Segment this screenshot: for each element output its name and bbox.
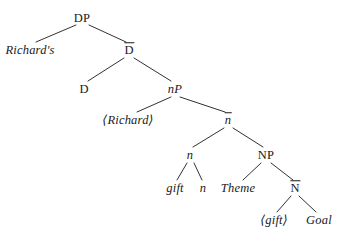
tree-edge-np_cap-to-theme: [243, 163, 261, 180]
tree-edge-dbar-to-np_small: [134, 58, 171, 81]
tree-node-np-small: nP: [168, 83, 182, 96]
tree-node-richard-copy: ⟨Richard⟩: [102, 114, 153, 127]
tree-edge-nbar-to-n_node: [193, 128, 224, 147]
tree-node-d-bar: D: [124, 43, 133, 57]
tree-edge-nbar_cap-to-goal: [299, 196, 316, 212]
tree-edge-np_small-to-richard: [137, 97, 171, 112]
tree-edge-np_small-to-nbar: [180, 97, 225, 112]
tree-edge-np_cap-to-nbar_cap: [271, 163, 293, 180]
tree-node-d: D: [79, 83, 88, 96]
tree-edge-dp-to-richards: [36, 25, 76, 42]
tree-node-np: NP: [258, 149, 274, 162]
tree-leaf-gift-copy: ⟨gift⟩: [260, 214, 288, 227]
tree-leaf-gift: gift: [166, 182, 183, 195]
tree-leaf-theme: Theme: [221, 182, 255, 195]
tree-edge-n_node-to-n_term: [194, 163, 202, 180]
tree-edge-nbar_cap-to-gift_copy: [277, 196, 291, 212]
tree-leaf-n: n: [200, 182, 206, 195]
tree-node-n: n: [187, 149, 193, 162]
tree-node-n-bar-capital: N: [290, 181, 299, 195]
syntax-tree-figure: DP Richard's D D nP ⟨Richard⟩ n n NP gif…: [0, 0, 345, 239]
tree-node-richards: Richard's: [5, 44, 54, 57]
tree-edge-nbar-to-np_cap: [233, 128, 263, 147]
tree-edge-layer: [0, 0, 345, 239]
tree-node-n-bar: n: [225, 113, 231, 127]
tree-edge-n_node-to-gift: [177, 163, 187, 180]
tree-leaf-goal: Goal: [306, 214, 332, 227]
tree-edge-dbar-to-d: [88, 58, 124, 81]
tree-edge-dp-to-dbar: [89, 25, 126, 42]
tree-node-dp: DP: [74, 12, 90, 25]
